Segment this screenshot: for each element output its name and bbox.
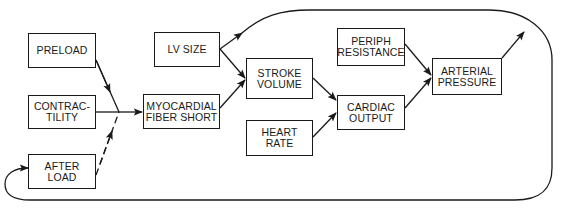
edge-strokevolume-cardiacoutput [313,78,336,100]
node-stroke-volume: STROKE VOLUME [246,58,313,99]
node-label: FIBER SHORT [146,112,218,123]
node-arterial-pressure: ARTERIAL PRESSURE [432,58,502,95]
node-label: VOLUME [257,79,302,90]
edge-lvsize-loop [220,33,242,49]
edge-afterload-junction [96,112,119,175]
node-afterload: AFTER LOAD [28,154,96,189]
node-label: PRELOAD [37,45,88,56]
node-label: ARTERIAL [441,66,493,77]
edge-heartrate-cardiacoutput [313,113,336,137]
edge-arterial-loop [502,32,524,58]
node-label: PRESSURE [438,77,497,88]
node-lv-size: LV SIZE [154,32,220,67]
arrow-preload [96,60,110,92]
node-label: MYOCARDIAL [146,101,216,112]
node-cardiac-output: CARDIAC OUTPUT [337,95,405,130]
node-label: AFTER [45,161,80,172]
node-label: CARDIAC [347,102,395,113]
node-myocardial-fiber-short: MYOCARDIAL FIBER SHORT [143,94,220,129]
node-label: LOAD [48,172,77,183]
node-contractility: CONTRAC- TILITY [28,95,96,129]
cardiac-function-diagram: PRELOAD CONTRAC- TILITY AFTER LOAD LV SI… [0,0,562,210]
node-label: LV SIZE [167,44,206,55]
node-label: RATE [266,138,294,149]
edge-periph-arterial [405,44,431,75]
edge-cardiacoutput-arterial [405,78,431,108]
node-periph-resistance: PERIPH RESISTANCE [337,28,405,66]
node-preload: PRELOAD [28,33,96,68]
node-label: STROKE [258,68,302,79]
node-heart-rate: HEART RATE [246,120,313,156]
edge-lvsize-strokevolume [220,49,245,78]
node-label: TILITY [46,112,78,123]
node-label: OUTPUT [349,113,393,124]
arrow-afterload [100,131,112,164]
node-label: RESISTANCE [337,47,404,58]
edge-myocardial-strokevolume [220,80,245,108]
